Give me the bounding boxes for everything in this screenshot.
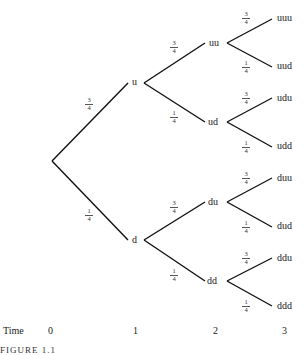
node-uuu: uuu — [277, 13, 292, 23]
edge-root-d — [52, 161, 128, 240]
axis-tick-3: 3 — [282, 326, 287, 336]
prob-ud-up: 3 4 — [242, 91, 250, 105]
node-udu: udu — [277, 93, 292, 103]
prob-root-up: 3 4 — [85, 97, 93, 111]
node-dud: dud — [277, 221, 292, 231]
node-ddd: ddd — [277, 301, 292, 311]
node-dd: dd — [207, 276, 217, 286]
node-udd: udd — [277, 141, 292, 151]
node-u: u — [132, 77, 137, 87]
prob-d-up: 3 4 — [170, 200, 178, 214]
prob-d-down: 1 4 — [170, 268, 178, 282]
prob-du-up: 3 4 — [242, 171, 250, 185]
prob-root-down: 1 4 — [85, 208, 93, 222]
axis-tick-2: 2 — [213, 326, 218, 336]
prob-uu-up: 3 4 — [242, 11, 250, 25]
prob-dd-down: 1 4 — [242, 299, 250, 313]
node-uu: uu — [209, 38, 219, 48]
node-ddu: ddu — [277, 253, 292, 263]
prob-uu-down: 1 4 — [242, 60, 250, 74]
node-uud: uud — [277, 61, 292, 71]
prob-u-up: 3 4 — [170, 40, 178, 54]
figure-caption: FIGURE 1.1 — [0, 345, 56, 355]
edge-root-u — [52, 83, 128, 161]
prob-u-down: 1 4 — [170, 110, 178, 124]
axis-tick-1: 1 — [133, 326, 138, 336]
axis-tick-0: 0 — [48, 326, 53, 336]
node-du: du — [208, 197, 218, 207]
prob-dd-up: 3 4 — [242, 251, 250, 265]
node-d: d — [132, 235, 137, 245]
prob-ud-down: 1 4 — [242, 140, 250, 154]
node-duu: duu — [277, 173, 292, 183]
prob-du-down: 1 4 — [242, 220, 250, 234]
node-ud: ud — [208, 117, 218, 127]
axis-label-time: Time — [3, 326, 24, 336]
